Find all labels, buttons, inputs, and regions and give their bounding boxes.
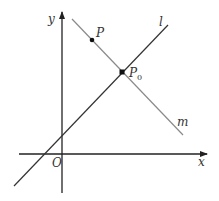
point-p0-label: P0 [128,66,142,82]
line-l [14,25,168,186]
point-p-label: P [95,26,105,40]
line-m-label: m [177,115,188,129]
origin-label: O [52,156,62,170]
line-l-label: l [159,15,163,29]
y-axis-label: y [47,12,55,26]
line-m [72,19,183,135]
point-p [90,38,95,43]
point-p0-subscript: 0 [137,73,142,82]
x-axis-label: x [198,155,205,169]
coordinate-diagram: y x O l m P P0 [0,0,219,201]
point-p0 [120,70,125,75]
